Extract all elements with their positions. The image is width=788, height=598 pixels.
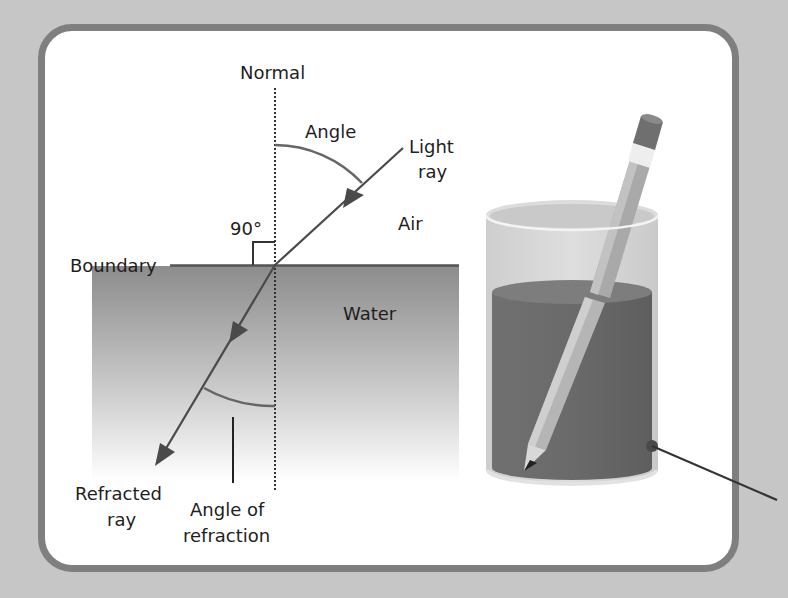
right-angle-label: 90°	[230, 218, 262, 240]
air-label: Air	[398, 213, 423, 235]
normal-label: Normal	[240, 62, 305, 84]
water-label: Water	[343, 303, 396, 325]
angle-of-refraction-label-line2: refraction	[183, 525, 270, 547]
incident-angle-arc	[275, 145, 362, 183]
angle-of-refraction-label-line1: Angle of	[190, 499, 264, 521]
light-ray-label-line2: ray	[418, 161, 447, 183]
light-ray-label-line1: Light	[409, 136, 454, 158]
glass-illustration	[486, 112, 664, 484]
angle-label: Angle	[305, 121, 356, 143]
incident-arrowhead	[343, 188, 364, 208]
right-angle-marker	[253, 242, 275, 265]
leader-line	[652, 446, 777, 500]
boundary-label: Boundary	[70, 255, 157, 277]
refracted-ray-label-line2: ray	[107, 509, 136, 531]
incident-ray	[275, 148, 403, 265]
refracted-ray-label-line1: Refracted	[75, 483, 162, 505]
